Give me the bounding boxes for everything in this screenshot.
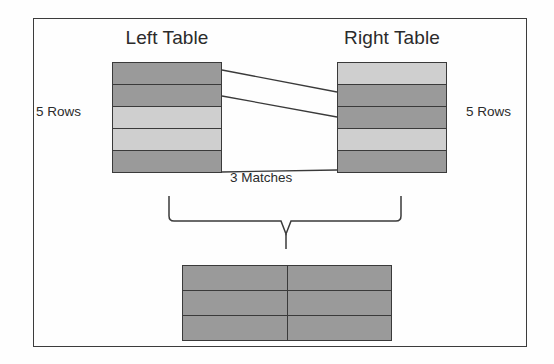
- result-table-row: [183, 291, 391, 316]
- right-table-title: Right Table: [337, 27, 447, 49]
- left-table-row: [113, 129, 221, 151]
- result-table: [182, 265, 392, 341]
- result-table-cell: [183, 291, 288, 315]
- right-table-row: [338, 107, 446, 129]
- result-table-cell: [288, 266, 392, 290]
- right-row-count-label: 5 Rows: [466, 104, 511, 119]
- match-count-label: 3 Matches: [230, 170, 292, 185]
- right-table-row: [338, 129, 446, 151]
- left-table-row: [113, 85, 221, 107]
- result-table-row: [183, 266, 391, 291]
- right-table-row: [338, 151, 446, 172]
- left-table-row: [113, 63, 221, 85]
- result-table-cell: [183, 316, 288, 340]
- result-table-cell: [183, 266, 288, 290]
- left-table-row: [113, 151, 221, 172]
- diagram-canvas: Left Table Right Table 5 Rows 5 Rows 3 M…: [0, 0, 554, 364]
- right-table: [337, 62, 447, 173]
- right-table-row: [338, 63, 446, 85]
- result-table-row: [183, 316, 391, 340]
- left-table: [112, 62, 222, 173]
- left-table-title: Left Table: [112, 27, 222, 49]
- left-row-count-label: 5 Rows: [36, 104, 81, 119]
- left-table-row: [113, 107, 221, 129]
- result-table-cell: [288, 291, 392, 315]
- result-table-cell: [288, 316, 392, 340]
- right-table-row: [338, 85, 446, 107]
